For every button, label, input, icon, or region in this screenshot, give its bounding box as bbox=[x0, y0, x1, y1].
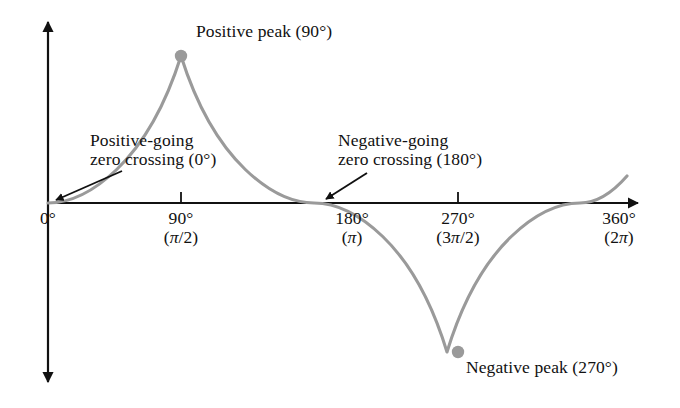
sine-wave-figure: Positive peak (90°) Positive-going zero … bbox=[0, 0, 680, 408]
callout-negative-zero-line2: zero crossing (180°) bbox=[338, 150, 482, 169]
x-axis-label-360deg: 360° (2π) bbox=[584, 209, 654, 247]
x-axis-label-180deg-radians: (π) bbox=[320, 228, 384, 247]
callout-positive-peak-text: Positive peak (90°) bbox=[196, 21, 332, 41]
callout-negative-going-zero-crossing: Negative-going zero crossing (180°) bbox=[338, 131, 482, 169]
callout-negative-peak-text: Negative peak (270°) bbox=[466, 357, 618, 377]
callout-positive-zero-line2: zero crossing (0°) bbox=[90, 150, 216, 169]
x-axis-label-90deg: 90° (π/2) bbox=[146, 209, 216, 247]
x-axis-label-90deg-degrees: 90° bbox=[146, 209, 216, 228]
positive-peak-marker bbox=[175, 50, 187, 62]
callout-positive-zero-line1: Positive-going bbox=[90, 130, 194, 150]
x-axis-label-360deg-radians: (2π) bbox=[584, 228, 654, 247]
callout-negative-zero-line1: Negative-going bbox=[338, 130, 448, 150]
x-axis-label-0deg: 0° bbox=[40, 209, 56, 228]
negative-peak-marker bbox=[452, 346, 464, 358]
x-axis-label-360deg-degrees: 360° bbox=[584, 209, 654, 228]
x-axis-label-0deg-degrees: 0° bbox=[40, 209, 56, 228]
callout-positive-peak: Positive peak (90°) bbox=[196, 22, 332, 41]
callout-positive-going-zero-crossing: Positive-going zero crossing (0°) bbox=[90, 131, 216, 169]
positive-zero-leader-arrow bbox=[56, 171, 122, 200]
x-axis-label-180deg-degrees: 180° bbox=[320, 209, 384, 228]
x-axis-label-180deg: 180° (π) bbox=[320, 209, 384, 247]
callout-negative-peak: Negative peak (270°) bbox=[466, 358, 618, 377]
negative-zero-leader-arrow bbox=[326, 173, 367, 199]
x-axis-label-270deg-radians: (3π/2) bbox=[416, 228, 500, 247]
x-axis-label-90deg-radians: (π/2) bbox=[146, 228, 216, 247]
x-axis-label-270deg: 270° (3π/2) bbox=[416, 209, 500, 247]
x-axis-label-270deg-degrees: 270° bbox=[416, 209, 500, 228]
sine-wave-plot bbox=[0, 0, 680, 408]
